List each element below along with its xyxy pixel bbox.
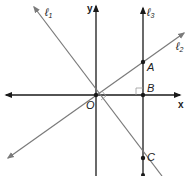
- line-l3-label: ℓ3: [146, 6, 155, 19]
- point-c: [141, 156, 145, 160]
- point-a-label: A: [146, 61, 154, 73]
- line-l2-label: ℓ2: [175, 40, 184, 53]
- point-bottom: [141, 173, 145, 176]
- point-b-label: B: [147, 82, 154, 94]
- x-axis-label: x: [178, 99, 184, 110]
- y-axis-label: y: [87, 3, 93, 14]
- origin-label: O: [86, 99, 95, 111]
- point-c-label: C: [147, 151, 155, 163]
- coordinate-diagram: y x O ℓ1 ℓ3 ℓ2 A B C: [0, 0, 187, 176]
- point-a: [141, 60, 145, 64]
- point-b: [141, 93, 145, 97]
- line-l1-label: ℓ1: [44, 6, 53, 19]
- point-origin: [94, 93, 98, 97]
